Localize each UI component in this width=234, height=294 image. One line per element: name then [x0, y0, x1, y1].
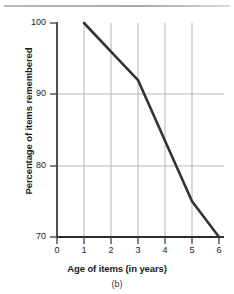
x-tick-label-0: 0	[49, 245, 65, 255]
figure-caption-text: (b)	[112, 279, 123, 289]
data-series-line	[84, 23, 219, 237]
gridlines-vertical	[84, 23, 192, 237]
x-tick-label-3: 3	[130, 245, 146, 255]
x-tick-label-4: 4	[157, 245, 173, 255]
x-tick-label-2: 2	[103, 245, 119, 255]
y-axis-title: Percentage of items remembered	[18, 26, 36, 216]
figure-panel: 100 90 80 70 0 1 2 3 4 5 6 Percentage of…	[0, 0, 234, 294]
x-axis-ticks	[57, 237, 219, 244]
figure-caption: (b)	[0, 273, 234, 291]
y-tick-label-70: 70	[22, 231, 46, 241]
y-axis-ticks	[50, 23, 57, 237]
x-tick-label-6: 6	[211, 245, 227, 255]
y-axis-title-text: Percentage of items remembered	[23, 48, 34, 195]
x-tick-label-5: 5	[184, 245, 200, 255]
x-tick-label-1: 1	[76, 245, 92, 255]
gridlines-horizontal	[57, 94, 224, 166]
